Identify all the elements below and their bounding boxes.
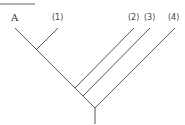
label-3: (3): [144, 14, 155, 22]
cladogram: [0, 0, 185, 125]
label-4: (4): [168, 14, 179, 22]
branch-1: [37, 28, 58, 49]
branch-4: [95, 28, 175, 108]
label-1: (1): [52, 14, 63, 22]
label-2: (2): [128, 14, 139, 22]
branch-2: [75, 28, 134, 88]
label-a: A: [11, 13, 18, 23]
